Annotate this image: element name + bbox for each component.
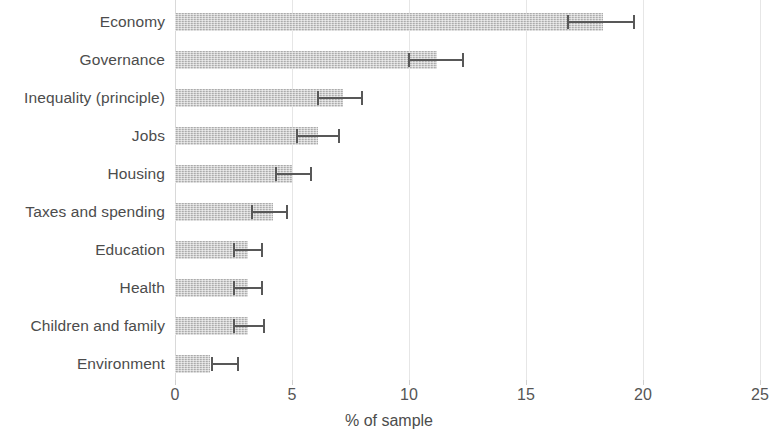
error-bar-cap-high bbox=[633, 15, 635, 29]
category-label-health: Health bbox=[120, 269, 165, 307]
bar-row: Taxes and spending bbox=[175, 193, 760, 231]
category-label-governance: Governance bbox=[80, 41, 165, 79]
bar-chart: EconomyGovernanceInequality (principle)J… bbox=[0, 0, 778, 439]
x-axis-title: % of sample bbox=[0, 412, 778, 430]
error-bar-cap-high bbox=[361, 91, 363, 105]
bar-row: Children and family bbox=[175, 307, 760, 345]
error-bar-cap-high bbox=[261, 243, 263, 257]
error-bar-line bbox=[568, 21, 634, 23]
x-tick-label-10: 10 bbox=[400, 386, 418, 404]
error-bar-cap-high bbox=[286, 205, 288, 219]
error-bar-cap-low bbox=[251, 205, 253, 219]
error-bar-cap-low bbox=[275, 167, 277, 181]
category-label-children-and-family: Children and family bbox=[30, 307, 165, 345]
error-bar-cap-low bbox=[233, 281, 235, 295]
error-bar-cap-high bbox=[338, 129, 340, 143]
x-tick-label-5: 5 bbox=[288, 386, 297, 404]
error-bar-cap-high bbox=[237, 357, 239, 371]
category-label-taxes-and-spending: Taxes and spending bbox=[25, 193, 165, 231]
bar bbox=[175, 51, 437, 69]
error-bar-line bbox=[234, 249, 262, 251]
bar bbox=[175, 355, 210, 373]
error-bar-line bbox=[234, 287, 262, 289]
plot-area: EconomyGovernanceInequality (principle)J… bbox=[175, 0, 760, 380]
x-tick-label-0: 0 bbox=[171, 386, 180, 404]
error-bar-cap-low bbox=[233, 319, 235, 333]
category-label-education: Education bbox=[95, 231, 165, 269]
bar-row: Housing bbox=[175, 155, 760, 193]
error-bar-cap-high bbox=[462, 53, 464, 67]
error-bar-line bbox=[409, 59, 463, 61]
error-bar-cap-high bbox=[261, 281, 263, 295]
error-bar-cap-low bbox=[408, 53, 410, 67]
error-bar-line bbox=[212, 363, 238, 365]
bar-row: Education bbox=[175, 231, 760, 269]
bar-row: Inequality (principle) bbox=[175, 79, 760, 117]
bar-row: Environment bbox=[175, 345, 760, 383]
category-label-inequality-principle: Inequality (principle) bbox=[24, 79, 165, 117]
bar-row: Jobs bbox=[175, 117, 760, 155]
bar-row: Health bbox=[175, 269, 760, 307]
category-label-economy: Economy bbox=[100, 3, 165, 41]
error-bar-cap-high bbox=[310, 167, 312, 181]
error-bar-line bbox=[234, 325, 264, 327]
error-bar-line bbox=[276, 173, 311, 175]
x-tick-label-20: 20 bbox=[634, 386, 652, 404]
category-label-jobs: Jobs bbox=[132, 117, 165, 155]
bar-row: Economy bbox=[175, 3, 760, 41]
error-bar-cap-low bbox=[317, 91, 319, 105]
error-bar-line bbox=[252, 211, 287, 213]
error-bar-line bbox=[318, 97, 362, 99]
error-bar-line bbox=[297, 135, 339, 137]
gridline-25 bbox=[760, 0, 761, 380]
tick-mark-25 bbox=[760, 380, 761, 385]
category-label-environment: Environment bbox=[77, 345, 165, 383]
x-tick-label-15: 15 bbox=[517, 386, 535, 404]
bar-row: Governance bbox=[175, 41, 760, 79]
error-bar-cap-low bbox=[567, 15, 569, 29]
error-bar-cap-low bbox=[211, 357, 213, 371]
x-tick-label-25: 25 bbox=[751, 386, 769, 404]
error-bar-cap-low bbox=[296, 129, 298, 143]
error-bar-cap-low bbox=[233, 243, 235, 257]
bar bbox=[175, 13, 603, 31]
error-bar-cap-high bbox=[263, 319, 265, 333]
category-label-housing: Housing bbox=[107, 155, 165, 193]
